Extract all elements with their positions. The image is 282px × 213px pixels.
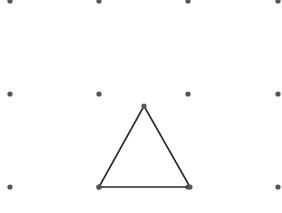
grid-dots <box>7 0 280 190</box>
grid-dot <box>275 0 280 4</box>
grid-dot <box>96 91 101 96</box>
grid-dot <box>275 91 280 96</box>
grid-dot <box>7 0 12 4</box>
grid-dot <box>185 0 190 4</box>
grid-dot <box>185 91 190 96</box>
triangle <box>99 106 190 187</box>
grid-dot <box>96 0 101 4</box>
triangle-vertices <box>96 103 192 189</box>
triangle-vertex-dot <box>141 103 146 108</box>
grid-dot <box>7 91 12 96</box>
grid-dot <box>7 184 12 189</box>
grid-dot <box>275 184 280 189</box>
triangle-vertex-dot <box>96 184 101 189</box>
triangle-vertex-dot <box>187 184 192 189</box>
dot-grid-figure <box>0 0 282 213</box>
